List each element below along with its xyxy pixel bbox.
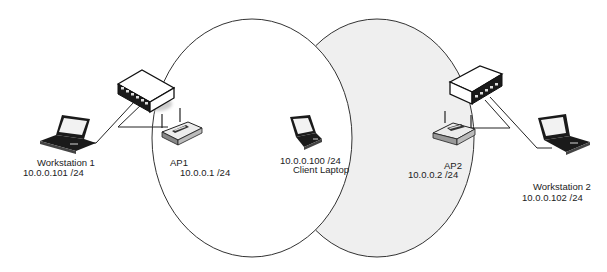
switch1-icon[interactable] <box>118 70 174 112</box>
client-name-label: Client Laptop <box>293 165 349 175</box>
workstation1-ip-label: 10.0.0.101 /24 <box>23 168 84 178</box>
cable-workstation1-switch1 <box>84 102 134 143</box>
network-diagram: Workstation 1 10.0.0.101 /24 AP1 10.0.0.… <box>0 0 607 272</box>
diagram-canvas <box>0 0 607 272</box>
ap1-ip-label: 10.0.0.1 /24 <box>180 168 230 178</box>
workstation2-name-label: Workstation 2 <box>533 182 591 192</box>
workstation2-laptop-icon[interactable] <box>538 114 590 155</box>
ap2-ip-label: 10.0.0.2 /24 <box>408 170 458 180</box>
workstation2-ip-label: 10.0.0.102 /24 <box>522 193 583 203</box>
workstation1-laptop-icon[interactable] <box>40 115 96 154</box>
